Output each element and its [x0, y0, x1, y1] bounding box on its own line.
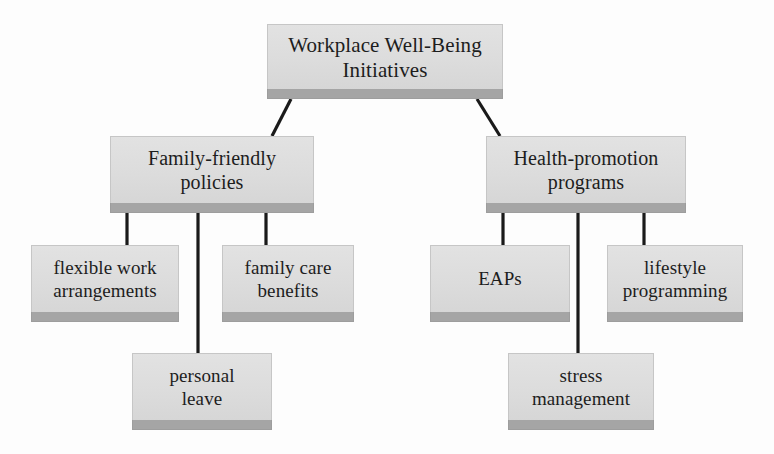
node-flexible-work-arrangements[interactable]: flexible work arrangements — [31, 245, 179, 313]
edge-root-to-health-promotion — [477, 99, 500, 136]
node-health-promotion-programs-label: Health-promotion programs — [508, 147, 665, 194]
node-health-promotion-programs-shadow — [486, 203, 686, 213]
node-root-shadow — [267, 89, 503, 99]
node-root-label: Workplace Well-Being Initiatives — [282, 33, 488, 83]
node-eaps[interactable]: EAPs — [430, 245, 570, 313]
edge-root-to-family-friendly — [272, 99, 291, 136]
node-family-friendly-policies[interactable]: Family-friendly policies — [110, 136, 314, 204]
node-health-promotion-programs[interactable]: Health-promotion programs — [486, 136, 686, 204]
node-flexible-work-arrangements-label: flexible work arrangements — [47, 257, 163, 302]
node-family-care-benefits[interactable]: family care benefits — [222, 245, 354, 313]
node-stress-management-shadow — [508, 420, 654, 430]
node-personal-leave[interactable]: personal leave — [132, 353, 272, 421]
node-eaps-label: EAPs — [472, 268, 528, 290]
node-family-care-benefits-label: family care benefits — [238, 257, 337, 302]
node-family-care-benefits-shadow — [222, 312, 354, 322]
node-family-friendly-policies-shadow — [110, 203, 314, 213]
node-stress-management-label: stress management — [526, 365, 636, 410]
node-personal-leave-label: personal leave — [163, 365, 240, 410]
node-stress-management[interactable]: stress management — [508, 353, 654, 421]
node-lifestyle-programming-shadow — [607, 312, 743, 322]
node-eaps-shadow — [430, 312, 570, 322]
node-lifestyle-programming-label: lifestyle programming — [617, 257, 734, 302]
diagram-canvas: Workplace Well-Being Initiatives Family-… — [0, 0, 774, 454]
node-family-friendly-policies-label: Family-friendly policies — [142, 147, 282, 194]
node-root[interactable]: Workplace Well-Being Initiatives — [267, 24, 503, 90]
node-flexible-work-arrangements-shadow — [31, 312, 179, 322]
node-personal-leave-shadow — [132, 420, 272, 430]
node-lifestyle-programming[interactable]: lifestyle programming — [607, 245, 743, 313]
